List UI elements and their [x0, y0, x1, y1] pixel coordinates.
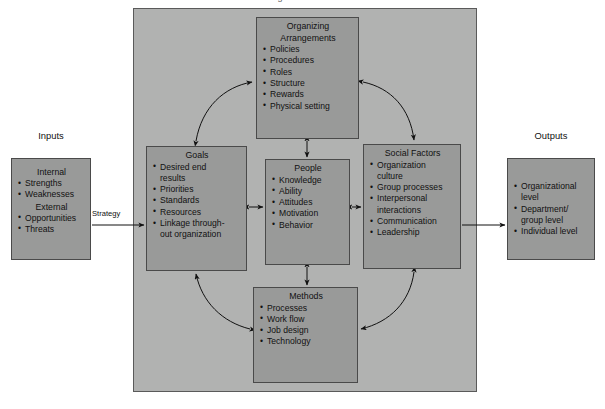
inputs-box[interactable]: Internal Strengths Weaknesses External O… — [11, 158, 91, 260]
outputs-box[interactable]: Organizational level Department/ group l… — [507, 158, 595, 260]
list-item: Organizational — [514, 181, 589, 192]
list-item: Interpersonal — [370, 193, 455, 204]
list-item: Attitudes — [272, 197, 344, 208]
diagram-canvas: Organizational Model — [0, 0, 605, 409]
outputs-caption: Outputs — [507, 130, 595, 141]
goals-box[interactable]: Goals Desired end results Priorities Sta… — [146, 146, 247, 271]
people-title: People — [272, 163, 344, 175]
list-item: Organization — [370, 160, 455, 171]
inputs-internal-list: Strengths Weaknesses — [18, 178, 85, 201]
methods-list: Processes Work flow Job design Technolog… — [260, 303, 352, 348]
list-item: Linkage through- — [153, 218, 241, 229]
list-item-cont: level — [514, 192, 589, 203]
inputs-external-heading: External — [18, 201, 85, 213]
list-item: Strengths — [18, 178, 85, 189]
inputs-external-list: Opportunities Threats — [18, 213, 85, 236]
list-item: Job design — [260, 325, 352, 336]
list-item-cont: out organization — [153, 229, 241, 240]
list-item: Threats — [18, 224, 85, 235]
list-item-cont: results — [153, 173, 241, 184]
list-item: Priorities — [153, 184, 241, 195]
organizing-title-line2: Arrangements — [263, 33, 353, 45]
list-item: Policies — [263, 44, 353, 55]
organizing-arrangements-box[interactable]: Organizing Arrangements Policies Procedu… — [256, 17, 359, 139]
people-box[interactable]: People Knowledge Ability Attitudes Motiv… — [265, 159, 350, 265]
cropped-title-text: Organizational Model — [250, 0, 370, 2]
outputs-list: Organizational level Department/ group l… — [514, 181, 589, 237]
list-item: Processes — [260, 303, 352, 314]
list-item-cont: culture — [370, 171, 455, 182]
inputs-caption: Inputs — [11, 130, 91, 141]
list-item-cont: group level — [514, 215, 589, 226]
list-item: Physical setting — [263, 101, 353, 112]
list-item: Group processes — [370, 182, 455, 193]
methods-box[interactable]: Methods Processes Work flow Job design T… — [253, 287, 358, 383]
social-list: Organization culture Group processes Int… — [370, 160, 455, 239]
list-item: Weaknesses — [18, 189, 85, 200]
social-factors-box[interactable]: Social Factors Organization culture Grou… — [363, 144, 461, 269]
list-item: Structure — [263, 78, 353, 89]
list-item: Opportunities — [18, 213, 85, 224]
cropped-title: Organizational Model — [250, 0, 370, 4]
goals-list: Desired end results Priorities Standards… — [153, 162, 241, 241]
people-list: Knowledge Ability Attitudes Motivation B… — [272, 175, 344, 231]
inputs-internal-heading: Internal — [18, 166, 85, 178]
list-item: Motivation — [272, 208, 344, 219]
list-item: Individual level — [514, 226, 589, 237]
list-item: Resources — [153, 207, 241, 218]
organizing-title-line1: Organizing — [263, 21, 353, 33]
methods-title: Methods — [260, 291, 352, 303]
goals-title: Goals — [153, 150, 241, 162]
social-title: Social Factors — [370, 148, 455, 160]
list-item: Communication — [370, 216, 455, 227]
list-item: Procedures — [263, 55, 353, 66]
list-item: Technology — [260, 336, 352, 347]
list-item: Behavior — [272, 220, 344, 231]
list-item: Department/ — [514, 204, 589, 215]
list-item: Leadership — [370, 227, 455, 238]
list-item: Standards — [153, 195, 241, 206]
list-item: Ability — [272, 186, 344, 197]
list-item-cont: interactions — [370, 205, 455, 216]
organizing-list: Policies Procedures Roles Structure Rewa… — [263, 44, 353, 112]
list-item: Rewards — [263, 89, 353, 100]
list-item: Work flow — [260, 314, 352, 325]
list-item: Roles — [263, 67, 353, 78]
list-item: Knowledge — [272, 175, 344, 186]
list-item: Desired end — [153, 162, 241, 173]
strategy-label: Strategy — [92, 209, 120, 218]
